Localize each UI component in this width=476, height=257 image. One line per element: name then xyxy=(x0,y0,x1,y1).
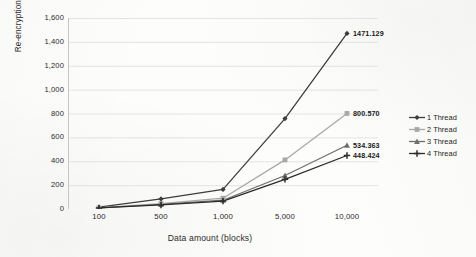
y-axis-tick-label: 200 xyxy=(24,181,64,189)
chart-legend: 1 Thread2 Thread3 Thread4 Thread xyxy=(408,112,474,160)
x-axis-title: Data amount (blocks) xyxy=(95,233,325,243)
x-axis-tick-label: 5,000 xyxy=(255,212,315,221)
legend-marker-icon xyxy=(408,112,426,123)
plot-area xyxy=(68,18,378,209)
legend-item-3-thread[interactable]: 3 Thread xyxy=(408,136,474,147)
legend-item-4-thread[interactable]: 4 Thread xyxy=(408,148,474,159)
legend-marker-icon xyxy=(408,136,426,147)
legend-label: 2 Thread xyxy=(426,125,457,134)
chart-canvas xyxy=(68,18,378,209)
x-axis-tick-label: 100 xyxy=(69,212,129,221)
legend-label: 4 Thread xyxy=(426,149,457,158)
data-point-label: 800.570 xyxy=(353,109,380,118)
x-axis-tick-label: 1,000 xyxy=(193,212,253,221)
y-axis-tick-label: 1,000 xyxy=(24,86,64,94)
chart-figure: Re-encryption time 02004006008001,0001,2… xyxy=(0,0,476,257)
legend-item-1-thread[interactable]: 1 Thread xyxy=(408,112,474,123)
y-axis-tick-labels: 02004006008001,0001,2001,4001,600 xyxy=(20,18,64,209)
legend-marker-icon xyxy=(408,148,426,159)
data-point-label: 1471.129 xyxy=(353,29,384,38)
x-axis-tick-label: 500 xyxy=(131,212,191,221)
legend-label: 3 Thread xyxy=(426,137,457,146)
y-axis-tick-label: 600 xyxy=(24,133,64,141)
legend-label: 1 Thread xyxy=(426,113,457,122)
y-axis-tick-label: 0 xyxy=(24,205,64,213)
y-axis-tick-label: 800 xyxy=(24,110,64,118)
y-axis-tick-label: 400 xyxy=(24,157,64,165)
data-point-label: 448.424 xyxy=(353,151,380,160)
legend-item-2-thread[interactable]: 2 Thread xyxy=(408,124,474,135)
y-axis-tick-label: 1,600 xyxy=(24,14,64,22)
y-axis-tick-label: 1,200 xyxy=(24,62,64,70)
legend-marker-icon xyxy=(408,124,426,135)
x-axis-tick-labels: 1005001,0005,00010,000 xyxy=(68,212,378,226)
y-axis-tick-label: 1,400 xyxy=(24,38,64,46)
data-point-label: 534.363 xyxy=(353,141,380,150)
x-axis-tick-label: 10,000 xyxy=(317,212,377,221)
